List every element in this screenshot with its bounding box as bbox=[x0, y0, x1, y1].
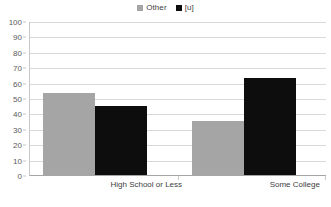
legend-item-other[interactable]: Other bbox=[137, 4, 167, 12]
y-tick-label: 40 bbox=[13, 110, 22, 119]
y-tick-label: 30 bbox=[13, 125, 22, 134]
bar[interactable] bbox=[95, 106, 147, 175]
y-tick-mark bbox=[23, 37, 26, 38]
y-tick-mark bbox=[23, 99, 26, 100]
bar[interactable] bbox=[192, 121, 244, 175]
y-tick-label: 60 bbox=[13, 79, 22, 88]
legend-label-u: [u] bbox=[185, 4, 194, 12]
bar[interactable] bbox=[244, 78, 296, 175]
y-tick-label: 80 bbox=[13, 48, 22, 57]
x-category-separator bbox=[178, 176, 179, 180]
x-tick-label: High School or Less bbox=[110, 180, 182, 189]
chart-legend: Other [u] bbox=[0, 1, 331, 14]
y-tick-mark bbox=[23, 114, 26, 115]
y-tick-mark bbox=[23, 83, 26, 84]
y-tick-label: 90 bbox=[13, 33, 22, 42]
y-tick-mark bbox=[23, 129, 26, 130]
bar-chart: Other [u] 0102030405060708090100 High Sc… bbox=[0, 0, 331, 207]
x-axis: High School or LessSome College bbox=[29, 180, 326, 194]
y-tick-mark bbox=[23, 52, 26, 53]
y-tick-label: 70 bbox=[13, 64, 22, 73]
y-axis: 0102030405060708090100 bbox=[0, 22, 26, 176]
legend-item-u[interactable]: [u] bbox=[176, 4, 194, 12]
x-tick-label: Some College bbox=[270, 180, 320, 189]
square-swatch-icon bbox=[137, 5, 143, 11]
y-tick-label: 100 bbox=[9, 18, 22, 27]
plot-area bbox=[29, 22, 326, 176]
x-category-separator bbox=[325, 176, 326, 180]
y-tick-mark bbox=[23, 145, 26, 146]
y-tick-mark bbox=[23, 22, 26, 23]
y-tick-label: 50 bbox=[13, 95, 22, 104]
y-tick-mark bbox=[23, 176, 26, 177]
y-tick-mark bbox=[23, 68, 26, 69]
bar[interactable] bbox=[43, 93, 95, 175]
square-swatch-icon bbox=[176, 5, 182, 11]
y-tick-label: 0 bbox=[18, 172, 22, 181]
y-tick-mark bbox=[23, 160, 26, 161]
y-tick-label: 10 bbox=[13, 156, 22, 165]
y-tick-label: 20 bbox=[13, 141, 22, 150]
bars-layer bbox=[30, 22, 326, 175]
legend-label-other: Other bbox=[146, 4, 167, 12]
